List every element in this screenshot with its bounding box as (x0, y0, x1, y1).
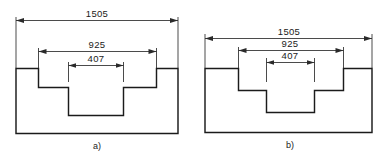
arrowhead-a-407-right (116, 63, 124, 68)
arrowhead-b-1505-left (205, 36, 213, 41)
arrowhead-b-925-right (336, 48, 344, 53)
figure-caption-a: a) (93, 141, 101, 151)
profile-outline-a (16, 69, 178, 134)
dimension-label-b-925: 925 (282, 38, 299, 49)
arrowhead-a-1505-left (16, 18, 24, 23)
arrowhead-b-925-left (239, 48, 247, 53)
figure-b: 1505 925 407 b) (195, 0, 391, 159)
profile-outline-b (205, 69, 372, 133)
arrowhead-b-407-right (307, 60, 315, 65)
figure-caption-b: b) (286, 140, 294, 150)
figure-a: 1505 925 407 a) (0, 0, 195, 159)
arrowhead-b-1505-right (364, 36, 372, 41)
arrowhead-a-925-right (149, 49, 157, 54)
arrowhead-a-925-left (39, 49, 47, 54)
dimension-label-a-407: 407 (88, 53, 105, 64)
arrowhead-a-1505-right (170, 18, 178, 23)
dimension-label-a-925: 925 (89, 39, 106, 50)
arrowhead-b-407-left (267, 60, 275, 65)
dimension-label-b-407: 407 (282, 50, 299, 61)
dimension-label-a-1505: 1505 (86, 8, 108, 19)
dimension-label-b-1505: 1505 (278, 26, 300, 37)
arrowhead-a-407-left (69, 63, 77, 68)
drawing-sheet: 1505 925 407 a) 1505 925 (0, 0, 391, 159)
